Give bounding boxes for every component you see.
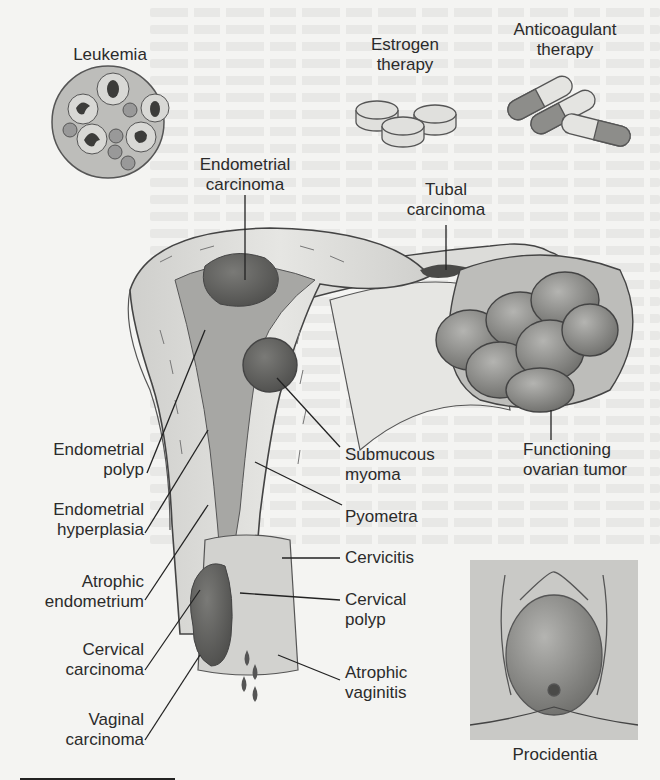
label-procidentia: Procidentia [480, 745, 630, 765]
label-cervical-polyp: Cervical polyp [345, 590, 406, 630]
label-submucous-myoma: Submucous myoma [345, 445, 435, 485]
label-anticoagulant-therapy: Anticoagulant therapy [490, 20, 640, 60]
label-endometrial-polyp: Endometrial polyp [10, 440, 144, 480]
label-pyometra: Pyometra [345, 507, 418, 527]
blood-smear-circle-icon [52, 66, 169, 178]
label-functioning-ovarian-tumor: Functioning ovarian tumor [523, 440, 627, 480]
label-atrophic-vaginitis: Atrophic vaginitis [345, 663, 407, 703]
label-cervicitis: Cervicitis [345, 548, 414, 568]
label-tubal-carcinoma: Tubal carcinoma [396, 180, 496, 220]
label-atrophic-endometrium: Atrophic endometrium [10, 572, 144, 612]
lobulated-mass-icon [436, 255, 633, 412]
label-endometrial-hyperplasia: Endometrial hyperplasia [10, 500, 144, 540]
label-cervical-carcinoma: Cervical carcinoma [10, 640, 144, 680]
capsules-icon [504, 73, 632, 148]
prolapse-inset-icon [470, 572, 638, 725]
label-vaginal-carcinoma: Vaginal carcinoma [10, 710, 144, 750]
label-estrogen-therapy: Estrogen therapy [355, 35, 455, 75]
tablet-pills-icon [356, 101, 456, 147]
label-endometrial-carcinoma: Endometrial carcinoma [185, 155, 305, 195]
label-leukemia: Leukemia [60, 45, 160, 65]
